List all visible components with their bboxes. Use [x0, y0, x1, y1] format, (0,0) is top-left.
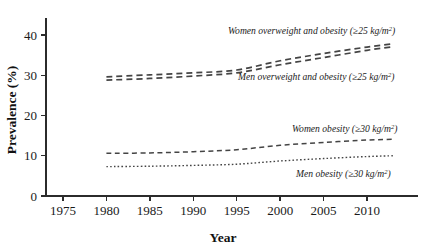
x-tick-label: 1985 [137, 203, 163, 218]
x-tick-label: 1990 [180, 203, 206, 218]
y-tick-label: 30 [24, 68, 37, 83]
x-axis-ticks: 19751980198519901995200020052010 [50, 196, 380, 218]
series-label: Women overweight and obesity (≥25 kg/m2) [228, 25, 395, 37]
data-series-group [106, 44, 393, 167]
series-label: Women obesity (≥30 kg/m2) [292, 123, 397, 135]
x-tick-label: 2000 [267, 203, 293, 218]
y-axis-ticks: 010203040 [24, 28, 46, 204]
y-tick-label: 0 [31, 189, 38, 204]
series-annotations: Women overweight and obesity (≥25 kg/m2)… [228, 25, 397, 180]
y-tick-label: 20 [24, 108, 37, 123]
x-axis: 19751980198519901995200020052010 [46, 196, 418, 218]
x-tick-label: 1980 [93, 203, 119, 218]
prevalence-line-chart: 010203040 197519801985199019952000200520… [0, 0, 422, 248]
series-label: Men overweight and obesity (≥25 kg/m2) [237, 71, 394, 83]
y-tick-label: 10 [24, 148, 37, 163]
x-tick-label: 1995 [224, 203, 250, 218]
x-tick-label: 2010 [354, 203, 380, 218]
y-tick-label: 40 [24, 28, 37, 43]
x-tick-label: 2005 [311, 203, 337, 218]
y-axis-title: Prevalence (%) [4, 66, 19, 155]
series-label: Men obesity (≥30 kg/m2) [295, 168, 391, 180]
series-line [106, 139, 393, 153]
x-axis-title: Year [210, 230, 237, 245]
y-axis: 010203040 [24, 18, 46, 204]
series-line [106, 156, 393, 167]
chart-container: 010203040 197519801985199019952000200520… [0, 0, 422, 248]
x-tick-label: 1975 [50, 203, 76, 218]
